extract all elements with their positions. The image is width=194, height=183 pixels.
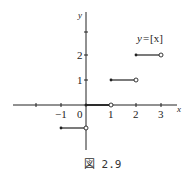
open-dot <box>84 126 88 130</box>
open-dot <box>109 103 113 107</box>
y-axis-label: y <box>77 10 82 20</box>
y-tick-label: 1 <box>77 74 83 86</box>
figure-caption: 図 2.9 <box>84 158 122 171</box>
x-tick-label: 1 <box>108 108 114 120</box>
x-axis-label: x <box>176 104 181 114</box>
x-tick-label: 3 <box>158 108 164 120</box>
open-dot <box>159 53 163 57</box>
closed-dot <box>60 127 63 130</box>
closed-dot <box>85 104 88 107</box>
x-tick-label: −1 <box>55 108 67 120</box>
x-tick-label: 2 <box>133 108 139 120</box>
closed-dot <box>135 54 138 57</box>
x-tick-label: 0 <box>77 108 83 120</box>
y-tick-label: 2 <box>77 49 83 61</box>
open-dot <box>134 78 138 82</box>
function-annotation: y=[x] <box>136 32 163 44</box>
closed-dot <box>110 79 113 82</box>
floor-function-graph: x y −1 0 1 2 3 1 2 y=[x] 図 2.9 <box>0 0 194 183</box>
